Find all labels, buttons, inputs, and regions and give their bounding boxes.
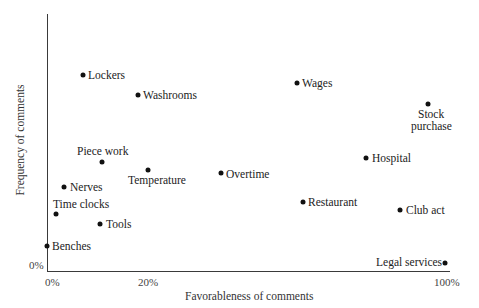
label-lockers: Lockers xyxy=(88,69,125,82)
point-nerves xyxy=(62,185,67,190)
label-nerves: Nerves xyxy=(70,181,103,194)
point-time-clocks xyxy=(54,212,59,217)
label-club-act: Club act xyxy=(406,204,445,217)
point-restaurant xyxy=(301,200,306,205)
y-axis-line xyxy=(47,14,48,272)
label-hospital: Hospital xyxy=(372,152,411,165)
point-wages xyxy=(295,81,300,86)
label-tools: Tools xyxy=(106,218,131,231)
point-washrooms xyxy=(136,93,141,98)
label-stock-purchase-line2: purchase xyxy=(411,120,452,133)
label-time-clocks: Time clocks xyxy=(53,198,109,211)
label-legal-services: Legal services xyxy=(376,256,442,269)
point-club-act xyxy=(398,208,403,213)
label-benches: Benches xyxy=(52,240,91,253)
x-tick-100: 100% xyxy=(434,276,460,288)
label-washrooms: Washrooms xyxy=(143,89,197,102)
label-temperature: Temperature xyxy=(128,174,186,187)
point-tools xyxy=(98,222,103,227)
point-stock-purchase xyxy=(426,102,431,107)
point-legal-services xyxy=(443,261,448,266)
scatter-chart: 0% 0% 20% 100% Favorableness of comments… xyxy=(0,0,479,308)
label-restaurant: Restaurant xyxy=(308,196,357,209)
x-axis-line xyxy=(47,271,450,272)
label-wages: Wages xyxy=(302,77,332,90)
x-tick-20: 20% xyxy=(138,276,158,288)
point-hospital xyxy=(364,156,369,161)
label-overtime: Overtime xyxy=(226,168,269,181)
x-tick-0: 0% xyxy=(45,276,60,288)
point-overtime xyxy=(219,171,224,176)
point-benches xyxy=(45,244,50,249)
x-axis-title: Favorableness of comments xyxy=(185,290,313,302)
y-tick-0: 0% xyxy=(29,259,44,271)
point-temperature xyxy=(146,168,151,173)
point-piece-work xyxy=(100,160,105,165)
y-axis-title: Frequency of comments xyxy=(14,84,26,195)
point-lockers xyxy=(81,73,86,78)
label-piece-work: Piece work xyxy=(77,145,128,158)
